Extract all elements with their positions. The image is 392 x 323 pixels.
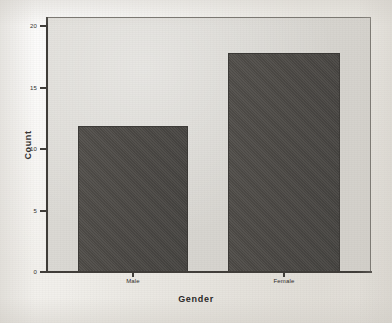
x-axis-title: Gender: [0, 294, 392, 304]
y-tick-label-0: 0: [33, 269, 37, 275]
y-tick-label-20: 20: [30, 23, 37, 29]
y-axis-line: [46, 17, 48, 273]
y-tick-label-15: 15: [30, 85, 37, 91]
x-axis-line: [46, 271, 372, 273]
y-axis-title: Count: [23, 131, 33, 160]
bar-male[interactable]: [78, 126, 188, 272]
y-tick-mark-20: [40, 25, 47, 27]
bars-layer: [46, 17, 371, 272]
x-tick-label-male: Male: [126, 278, 140, 284]
y-tick-label-5: 5: [33, 208, 37, 214]
y-tick-mark-15: [40, 87, 47, 89]
x-tick-mark-male: [132, 272, 134, 277]
y-tick-mark-5: [40, 210, 47, 212]
y-tick-mark-10: [40, 148, 47, 150]
bar-female[interactable]: [228, 53, 340, 272]
bar-chart-figure: 20 15 10 5 0 Male Female Count Gender: [0, 0, 392, 323]
chart-page: 20 15 10 5 0 Male Female Count Gender: [0, 0, 392, 323]
y-tick-mark-0: [40, 271, 47, 273]
x-tick-label-female: Female: [274, 278, 295, 284]
x-tick-mark-female: [283, 272, 285, 277]
